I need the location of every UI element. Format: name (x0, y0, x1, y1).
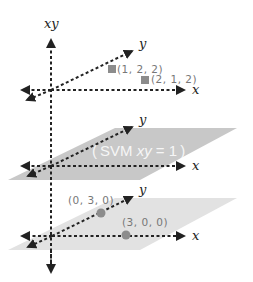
circle-marker-1 (97, 209, 106, 218)
diagram-canvas: xy x y (1, 2, 2) (2, 1, 2) x y (SVM xy =… (0, 0, 253, 282)
top-y-axis-neg (27, 90, 51, 100)
bottom-y-label: y (138, 182, 147, 197)
top-y-label: y (138, 36, 147, 51)
point-label-4: (3, 0, 0) (122, 216, 168, 228)
circle-marker-2 (122, 231, 131, 240)
square-marker-2 (141, 76, 149, 84)
svm-diagram: xy x y (1, 2, 2) (2, 1, 2) x y (SVM xy =… (0, 0, 253, 282)
point-label-3: (0, 3, 0) (68, 194, 114, 206)
plane-label: (SVM xy = 1) (92, 142, 185, 159)
middle-y-label: y (138, 112, 147, 127)
vertical-axis-label: xy (44, 16, 59, 31)
bottom-x-label: x (192, 228, 200, 243)
middle-x-label: x (192, 158, 200, 173)
point-label-2: (2, 1, 2) (151, 73, 197, 85)
top-axes: x y (1, 2, 2) (2, 1, 2) (22, 36, 200, 100)
square-marker-1 (108, 65, 116, 73)
